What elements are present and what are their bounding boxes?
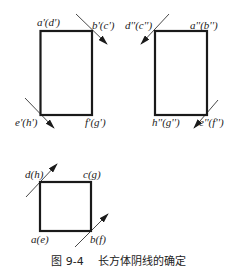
label-top-top-left: d(h) <box>25 169 43 180</box>
label-top-bottom-left: a(e) <box>31 234 49 245</box>
top-view-square <box>40 182 91 231</box>
front-view-rectangle <box>41 31 93 115</box>
label-side-top-left: d''(c'') <box>125 20 152 31</box>
side-view-rectangle <box>155 31 207 115</box>
label-top-bottom-right: b(f) <box>90 234 106 245</box>
label-side-bottom-left: h''(g'') <box>152 117 180 128</box>
label-front-bottom-left: e'(h') <box>15 117 37 128</box>
label-front-bottom-right: f'(g') <box>85 117 106 128</box>
figure-title: 长方体阴线的确定 <box>98 255 186 268</box>
figure-number: 图 9-4 <box>51 255 83 268</box>
label-top-top-right: c(g) <box>83 169 101 180</box>
label-front-top-left: a'(d') <box>37 17 60 28</box>
figure-caption: 图 9-4长方体阴线的确定 <box>0 252 237 268</box>
label-front-top-right: b'(c') <box>92 20 114 31</box>
label-side-top-right: a''(b'') <box>190 20 218 31</box>
label-side-bottom-right: e''(f'') <box>199 117 224 128</box>
